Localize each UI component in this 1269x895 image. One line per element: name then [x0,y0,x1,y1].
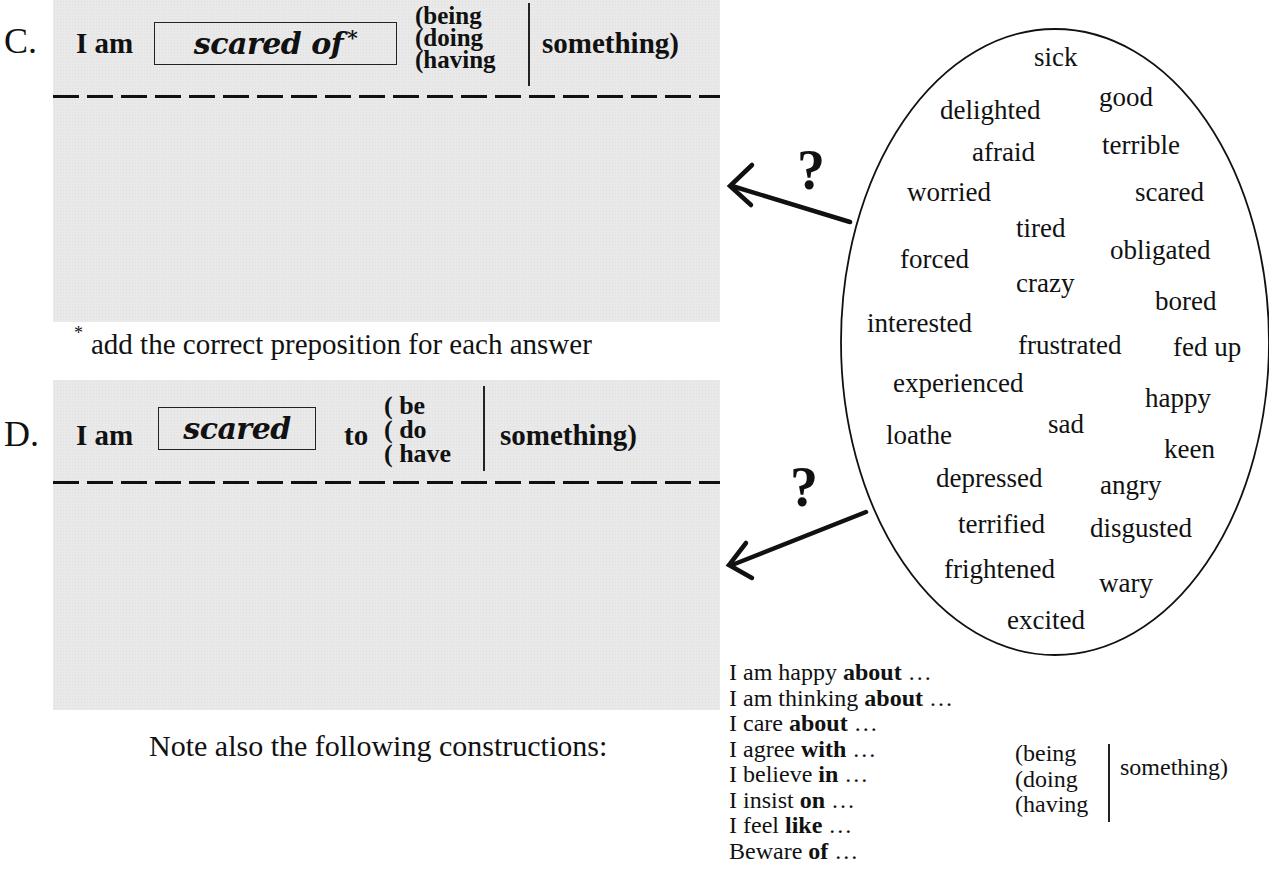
question-mark-lower: ? [790,455,818,519]
word-option: tired [1016,213,1065,244]
question-mark-upper: ? [797,138,825,202]
word-option: worried [907,177,991,208]
construction-line: I am thinking about … [729,686,953,712]
word-option: forced [900,244,969,275]
construction-line: I am happy about … [729,660,953,686]
word-option: obligated [1110,235,1210,266]
constructions-object: something) [1120,754,1228,781]
constructions-list: I am happy about … I am thinking about …… [729,660,953,864]
construction-line: Beware of … [729,839,953,865]
word-option: wary [1099,568,1153,599]
construction-line: I insist on … [729,788,953,814]
word-option: depressed [936,463,1042,494]
arrow-up-left-icon [730,165,850,222]
construction-line: I care about … [729,711,953,737]
word-option: bored [1155,286,1216,317]
word-option: sick [1034,42,1078,73]
word-option: good [1099,82,1153,113]
option-being: (being [1015,741,1088,767]
word-option: terrible [1102,130,1180,161]
constructions-options: (being (doing (having [1015,741,1088,818]
constructions-divider [1108,744,1110,822]
word-option: crazy [1016,268,1074,299]
word-option: interested [867,308,972,339]
word-option: loathe [886,420,952,451]
word-option: happy [1145,383,1211,414]
construction-line: I agree with … [729,737,953,763]
word-option: experienced [893,368,1023,399]
option-doing: (doing [1015,767,1088,793]
arrow-down-left-icon [729,512,866,578]
word-option: excited [1007,605,1085,636]
word-option: delighted [940,95,1040,126]
word-option: scared [1135,177,1204,208]
word-option: terrified [958,509,1045,540]
word-option: frustrated [1018,330,1121,361]
word-option: keen [1164,434,1215,465]
word-option: afraid [972,137,1035,168]
word-option: frightened [944,554,1055,585]
word-option: disgusted [1090,513,1192,544]
construction-line: I feel like … [729,813,953,839]
option-having: (having [1015,792,1088,818]
construction-line: I believe in … [729,762,953,788]
word-option: sad [1048,409,1084,440]
word-option: angry [1100,470,1161,501]
word-option: fed up [1173,332,1241,363]
